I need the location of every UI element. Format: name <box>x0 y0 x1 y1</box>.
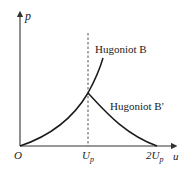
hugoniot-b-prime-label: Hugoniot B' <box>110 100 164 112</box>
origin-label: O <box>14 149 22 161</box>
x-axis-label: u <box>173 150 179 162</box>
hugoniot-diagram: p u O Up 2Up Hugoniot B Hugoniot B' <box>0 0 183 170</box>
two-up-tick-label: 2Up <box>146 149 163 164</box>
up-tick-label: Up <box>82 149 94 164</box>
y-axis-label: p <box>24 9 31 23</box>
hugoniot-b-label: Hugoniot B <box>95 43 147 55</box>
hugoniot-b-curve <box>20 58 103 146</box>
